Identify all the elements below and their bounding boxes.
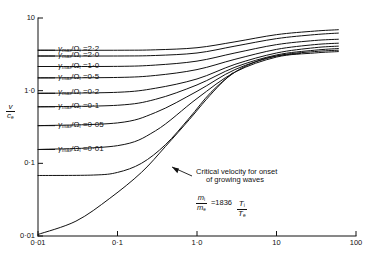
curve-label-equals: = <box>81 101 88 110</box>
curve-label: γmax/Ωi =1·0 <box>58 62 99 71</box>
y-tick-label: 0·1 <box>2 159 35 167</box>
curve-label-omega: Ωi <box>74 144 81 153</box>
curve-label-gamma: γmax <box>58 50 71 59</box>
mass-ratio-denominator-sub: e <box>203 207 206 212</box>
curve-label: γmax/Ωi =2·0 <box>58 51 99 60</box>
curve-label-value: 2·0 <box>88 50 100 59</box>
curve-label-value: 0·01 <box>88 144 104 153</box>
curve-label-gamma-sub: max <box>62 105 71 110</box>
plot-canvas <box>0 0 373 253</box>
critical-velocity-annotation-line2: of growing waves <box>196 176 277 184</box>
curve-label-equals: = <box>81 50 88 59</box>
curve-label-equals: = <box>81 87 88 96</box>
curve-label-value: 0·05 <box>88 120 104 129</box>
curve-label-equals: = <box>81 120 88 129</box>
label-leader-lines <box>38 50 55 149</box>
curve-label-omega: Ωi <box>74 120 81 129</box>
curve-label-omega: Ωi <box>74 61 81 70</box>
annotation-arrow <box>172 167 192 176</box>
curve-label: γmax/Ωi =0·05 <box>58 121 104 130</box>
curve-label-gamma-sub: max <box>62 148 71 153</box>
curve-label-value: 0·2 <box>88 87 100 96</box>
x-tick-label: 10 <box>257 239 297 247</box>
y-tick-label: 1·0 <box>2 87 35 95</box>
curve-label-value: 0·5 <box>88 72 100 81</box>
curve-label-gamma: γmax <box>58 87 71 96</box>
x-axis-title-denominator-sub: e <box>243 213 246 218</box>
mass-ratio-annotation: mi me =1836 <box>196 194 232 212</box>
x-axis-tick-marks <box>38 231 356 236</box>
curve-label-omega: Ωi <box>74 87 81 96</box>
curve-label-gamma: γmax <box>58 61 71 70</box>
y-axis-title: v ce <box>6 103 15 121</box>
curve-label-gamma-sub: max <box>62 54 71 59</box>
curve-label-gamma-sub: max <box>62 76 71 81</box>
curve-label: γmax/Ωi =0·5 <box>58 73 99 82</box>
x-axis-title-numerator-sub: i <box>244 203 245 208</box>
curve-label-gamma: γmax <box>58 120 71 129</box>
curve-label: γmax/Ωi =0·2 <box>58 88 99 97</box>
arrow-head <box>172 167 179 173</box>
curve-label-gamma-sub: max <box>62 65 71 70</box>
curve-label-value: 1·0 <box>88 61 100 70</box>
curve-label-gamma: γmax <box>58 144 71 153</box>
curve-label-gamma-sub: max <box>62 124 71 129</box>
curve-label-gamma-sub: max <box>62 91 71 96</box>
curve-label-value: 0·1 <box>88 101 100 110</box>
y-tick-label: 10 <box>2 14 35 22</box>
curve-label-omega: Ωi <box>74 50 81 59</box>
curve-label-omega: Ωi <box>74 72 81 81</box>
curve-label: γmax/Ωi =0·01 <box>58 145 104 154</box>
curve-label-omega: Ωi <box>74 101 81 110</box>
x-tick-label: 1·0 <box>177 239 217 247</box>
figure-log-log-plot: 0·010·11·010 0·010·11·010100 γmax/Ωi =2·… <box>0 0 373 253</box>
curve-label-equals: = <box>81 72 88 81</box>
mass-ratio-value: =1836 <box>211 198 232 207</box>
curve-label-gamma: γmax <box>58 72 71 81</box>
y-axis-title-denominator-sub: e <box>11 115 14 120</box>
x-tick-label: 0·01 <box>18 239 58 247</box>
curve-label: γmax/Ωi =0·1 <box>58 102 99 111</box>
mass-ratio-numerator-sub: i <box>204 197 205 202</box>
curve-label-gamma: γmax <box>58 101 71 110</box>
x-tick-label: 0·1 <box>98 239 138 247</box>
curve-label-equals: = <box>81 144 88 153</box>
x-tick-label: 100 <box>336 239 373 247</box>
curve-label-equals: = <box>81 61 88 70</box>
critical-velocity-annotation: Critical velocity for onset of growing w… <box>196 168 277 183</box>
x-axis-title: Ti Te <box>237 200 247 219</box>
